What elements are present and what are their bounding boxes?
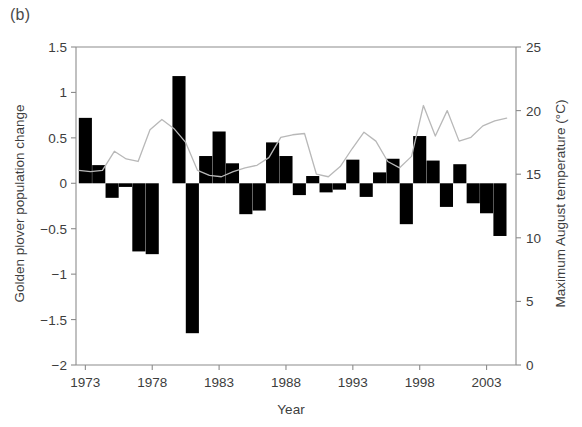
x-axis-title: Year (0, 402, 582, 417)
bar (440, 183, 453, 207)
svg-text:1998: 1998 (405, 375, 435, 390)
bar (346, 160, 359, 184)
svg-text:1978: 1978 (137, 375, 167, 390)
svg-text:1993: 1993 (338, 375, 368, 390)
bar (293, 183, 306, 195)
panel-label: (b) (10, 6, 30, 24)
svg-text:1.5: 1.5 (48, 40, 67, 55)
bar (493, 183, 506, 236)
bar (333, 183, 346, 189)
svg-text:1973: 1973 (70, 375, 100, 390)
figure-panel: (b) Golden plover population change Maxi… (0, 0, 582, 427)
bar (467, 183, 480, 203)
svg-text:25: 25 (526, 40, 541, 55)
svg-text:1988: 1988 (271, 375, 301, 390)
y-axis-title-right: Maximum August temperature (°C) (553, 74, 568, 334)
bar (106, 183, 119, 198)
svg-text:−2: −2 (52, 358, 67, 373)
bar (186, 183, 199, 333)
bar (373, 172, 386, 183)
bar (480, 183, 493, 213)
svg-text:0.5: 0.5 (48, 131, 67, 146)
svg-text:−1: −1 (52, 267, 67, 282)
bar (306, 176, 319, 183)
bar (266, 142, 279, 183)
bar (279, 156, 292, 183)
bar (79, 118, 92, 183)
y-axis-title-left: Golden plover population change (12, 89, 27, 319)
bar (427, 161, 440, 184)
bar (119, 183, 132, 187)
svg-text:1: 1 (59, 85, 67, 100)
bar (253, 183, 266, 210)
chart-plot-area: −2−1.5−1−0.500.511.5 0510152025 19731978… (0, 0, 582, 427)
svg-text:2003: 2003 (472, 375, 502, 390)
svg-text:5: 5 (526, 294, 534, 309)
bar (360, 183, 373, 197)
bar (132, 183, 145, 251)
svg-text:−1.5: −1.5 (40, 313, 67, 328)
bar-series (79, 76, 507, 333)
bar (320, 183, 333, 192)
svg-text:20: 20 (526, 104, 541, 119)
bar (146, 183, 159, 254)
svg-text:0: 0 (59, 176, 67, 191)
temperature-line (79, 106, 507, 177)
bar (453, 164, 466, 183)
x-axis-ticks: 1973197819831988199319982003 (70, 365, 501, 390)
line-series (79, 106, 507, 177)
svg-text:1983: 1983 (204, 375, 234, 390)
svg-text:15: 15 (526, 167, 541, 182)
svg-text:10: 10 (526, 231, 541, 246)
svg-text:−0.5: −0.5 (40, 222, 67, 237)
bar (199, 156, 212, 183)
bar (400, 183, 413, 224)
y-axis-right-ticks: 0510152025 (516, 40, 541, 373)
y-axis-left-ticks: −2−1.5−1−0.500.511.5 (40, 40, 76, 373)
bar (239, 183, 252, 214)
svg-text:0: 0 (526, 358, 534, 373)
